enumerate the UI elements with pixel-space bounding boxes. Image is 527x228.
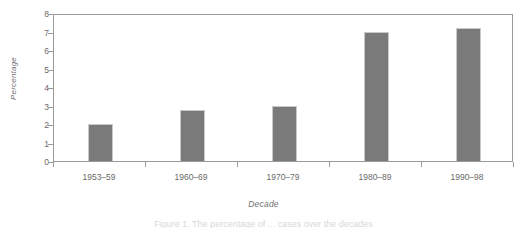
x-axis-tick-1980–89: 1980–89 <box>358 172 391 182</box>
y-axis-tick-0: 0 <box>31 157 49 167</box>
y-axis-tick-3: 3 <box>31 102 49 112</box>
x-axis-tickmark <box>53 162 54 167</box>
x-axis-tick-1953–59: 1953–59 <box>82 172 115 182</box>
bar-1970–79 <box>272 106 297 162</box>
bar-1953–59 <box>88 124 113 161</box>
y-axis-tickmark <box>48 144 53 145</box>
bar-1990–98 <box>456 28 481 161</box>
x-axis-tick-1990–98: 1990–98 <box>450 172 483 182</box>
y-axis-tickmark <box>48 33 53 34</box>
x-axis-tickmark <box>145 162 146 167</box>
y-axis-tick-8: 8 <box>31 9 49 19</box>
figure-caption-fragment: Figure 1. The percentage of ... cases ov… <box>0 219 527 228</box>
x-axis-tickmark <box>513 162 514 167</box>
y-axis-label: Percentage <box>9 39 18 119</box>
y-axis-tickmark <box>48 51 53 52</box>
y-axis-tick-6: 6 <box>31 46 49 56</box>
y-axis-tickmark <box>48 14 53 15</box>
y-axis-tickmark <box>48 125 53 126</box>
y-axis-tickmark <box>48 107 53 108</box>
x-axis-tick-1960–69: 1960–69 <box>174 172 207 182</box>
x-axis-tick-1970–79: 1970–79 <box>266 172 299 182</box>
bar-1980–89 <box>364 32 389 162</box>
y-axis-tick-2: 2 <box>31 120 49 130</box>
y-axis-tick-5: 5 <box>31 65 49 75</box>
y-axis-tick-1: 1 <box>31 139 49 149</box>
plot-area <box>53 14 513 162</box>
x-axis-tickmark <box>421 162 422 167</box>
x-axis-tickmark <box>329 162 330 167</box>
y-axis-tickmark <box>48 88 53 89</box>
y-axis-tick-labels: 876543210 <box>27 0 49 228</box>
bar-chart-figure: Percentage 876543210 1953–591960–691970–… <box>0 0 527 228</box>
x-axis-label: Decade <box>0 199 527 209</box>
x-axis-tickmark <box>237 162 238 167</box>
y-axis-tickmark <box>48 70 53 71</box>
y-axis-tick-7: 7 <box>31 28 49 38</box>
bar-1960–69 <box>180 110 205 161</box>
y-axis-tick-4: 4 <box>31 83 49 93</box>
